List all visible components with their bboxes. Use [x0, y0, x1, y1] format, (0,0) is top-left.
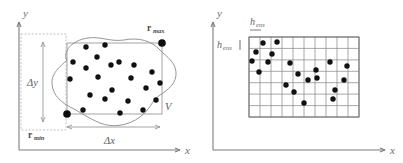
left-x-axis-label: x: [184, 144, 190, 156]
particle-dot: [116, 59, 121, 64]
r-min-label-base: r: [28, 130, 33, 140]
right-y-axis: y: [211, 7, 222, 150]
particle-dot: [83, 44, 88, 49]
r-max-label-sub: max: [153, 27, 165, 34]
particle-dot: [283, 82, 288, 87]
particle-dot: [269, 51, 274, 56]
particle-dot: [80, 107, 85, 112]
particle-dot: [314, 75, 319, 80]
right-x-axis: x: [213, 144, 395, 156]
volume-label: V: [165, 101, 173, 112]
figure-container: y x Δy: [0, 0, 403, 163]
r-min-label-sub: min: [34, 134, 45, 141]
r-max-label: r max: [147, 23, 165, 34]
right-y-axis-label: y: [216, 7, 222, 19]
particle-dot: [341, 77, 346, 82]
particle-dot: [109, 87, 114, 92]
particle-dot: [256, 69, 261, 74]
particle-dot: [102, 42, 107, 47]
particle-dot: [153, 97, 158, 102]
right-particle-dots: [249, 39, 349, 105]
particle-dot: [330, 96, 335, 101]
bounding-box: [67, 43, 162, 114]
particle-dot: [131, 62, 136, 67]
delta-x-label: Δx: [103, 135, 115, 146]
right-panel: y x h ens h ens: [211, 7, 395, 156]
particle-dot: [260, 40, 265, 45]
particle-dot: [83, 65, 88, 70]
particle-dot: [265, 59, 270, 64]
r-max-label-base: r: [147, 23, 152, 33]
particle-dot: [249, 58, 254, 63]
particle-dot: [102, 96, 107, 101]
particle-dot: [313, 67, 318, 72]
particle-dot: [327, 59, 332, 64]
particle-dot: [291, 89, 296, 94]
delta-y-label: Δy: [26, 77, 38, 88]
particle-dot: [140, 107, 145, 112]
particle-dot: [70, 59, 75, 64]
left-y-axis-label: y: [22, 7, 28, 19]
h-ens-side-base: h: [217, 39, 222, 50]
particle-dot: [301, 100, 306, 105]
delta-y-dimension: Δy: [26, 42, 45, 122]
particle-dot: [157, 80, 162, 85]
particle-dot: [94, 54, 99, 59]
h-ens-top-base: h: [250, 16, 255, 27]
particle-dot: [87, 92, 92, 97]
particle-dot: [117, 110, 122, 115]
h-ens-side-sub: ens: [223, 44, 232, 51]
particle-dot: [305, 77, 310, 82]
left-panel: y x Δy: [17, 7, 190, 156]
particle-dot: [125, 98, 130, 103]
particle-dot: [274, 39, 279, 44]
particle-dot: [67, 76, 72, 81]
particle-dot: [108, 62, 113, 67]
particle-dot: [332, 87, 337, 92]
particle-dot: [253, 49, 258, 54]
figure-svg: y x Δy: [0, 0, 403, 163]
right-x-axis-label: x: [389, 144, 395, 156]
particle-dot: [143, 85, 148, 90]
r-max-corner-dot: [158, 39, 166, 47]
particle-dot: [95, 74, 100, 79]
particle-dot: [287, 60, 292, 65]
h-ens-top-sub: ens: [256, 21, 265, 28]
h-ens-top-label: h ens: [250, 16, 265, 30]
particle-dot: [128, 75, 133, 80]
particle-dot: [149, 69, 154, 74]
delta-x-dimension: Δx: [67, 125, 160, 146]
particle-dot: [295, 71, 300, 76]
h-ens-side-label: h ens: [217, 39, 240, 51]
left-particle-dots: [67, 42, 162, 115]
particle-dot: [344, 63, 349, 68]
r-min-corner-dot: [63, 110, 71, 118]
r-min-label: r min: [28, 130, 45, 141]
